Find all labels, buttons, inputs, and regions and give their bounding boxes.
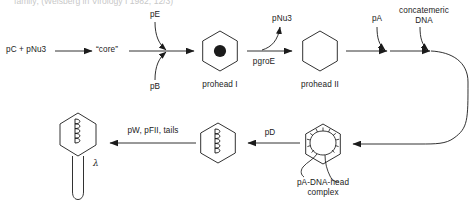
curve-concatemeric-dna-input [420, 27, 428, 50]
label-lambda-phage: λ [93, 158, 99, 168]
label-pgroE: pgroE [253, 57, 275, 67]
label-concatemeric-dna-line2: DNA [415, 16, 433, 27]
label-core: “core” [96, 45, 118, 55]
label-substrates: pC + pNu3 [6, 45, 46, 55]
phage-tail [73, 156, 84, 200]
label-complex-line1: pA-DNA-head [297, 178, 349, 189]
coiled-dna-loop [310, 131, 336, 155]
label-pB: pB [150, 82, 160, 92]
curve-pA-input [377, 27, 385, 50]
label-pA: pA [372, 14, 382, 24]
curve-pE-input [155, 22, 166, 50]
wraparound-connector-right [420, 51, 468, 144]
pathway-diagram-graphics [0, 0, 475, 208]
label-pD: pD [265, 128, 276, 138]
label-complex-line2: complex [307, 188, 338, 199]
curve-pB-input [155, 52, 166, 80]
label-pNu3-released: pNu3 [272, 14, 292, 24]
label-prohead1: prohead I [202, 80, 238, 90]
label-pE: pE [150, 10, 160, 20]
packed-dna-coil-phage-head [75, 119, 80, 143]
curve-pNu3-release [262, 27, 280, 50]
label-concatemeric-dna-line1: concatemeric [399, 6, 449, 17]
label-prohead2: prohead II [301, 80, 339, 90]
label-tails-step: pW, pFII, tails [127, 126, 178, 136]
prohead1-core-dot [214, 45, 226, 57]
figure-canvas: family; (Weisberg in Virology I 1982, 12… [0, 0, 475, 208]
free-dna-tail-left [301, 154, 317, 177]
prohead2-hexagon [303, 31, 338, 71]
packed-dna-coil-filled-head [215, 129, 220, 153]
